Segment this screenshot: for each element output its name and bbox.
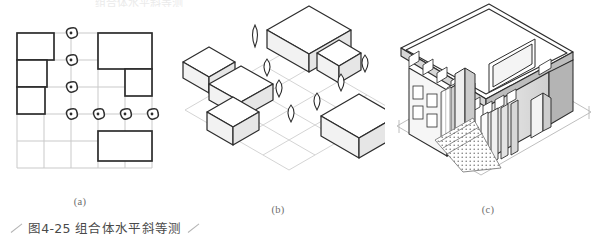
plan-view-svg bbox=[0, 0, 175, 195]
figure-caption-text: 图4-25 组合体水平斜等测 bbox=[28, 218, 182, 237]
decorative-slash-right-icon bbox=[187, 221, 200, 234]
tree-symbol bbox=[66, 28, 77, 39]
tree-symbol bbox=[147, 109, 158, 120]
tree-symbol bbox=[120, 109, 131, 120]
figure-row bbox=[0, 0, 600, 200]
sub-label-c: (c) bbox=[458, 204, 518, 215]
oblique-blocks bbox=[183, 6, 385, 158]
building-footprint bbox=[125, 69, 152, 96]
building-footprint bbox=[98, 131, 152, 161]
building-footprint bbox=[98, 33, 152, 69]
figure-caption: 图4-25 组合体水平斜等测 bbox=[10, 216, 210, 238]
sub-label-b: (b) bbox=[248, 204, 308, 215]
tree-leaf bbox=[288, 105, 294, 122]
tree-symbol bbox=[93, 109, 104, 120]
figure-page: 组合体水平斜等测 bbox=[0, 0, 600, 243]
tree-leaf bbox=[314, 93, 320, 110]
panel-a-plan-view bbox=[0, 0, 175, 195]
tree-leaf bbox=[264, 59, 270, 76]
plan-buildings bbox=[17, 33, 152, 161]
decorative-slash-left-icon bbox=[10, 221, 23, 234]
right-entrance bbox=[531, 93, 551, 138]
building-footprint bbox=[17, 87, 45, 114]
tree-leaf bbox=[338, 74, 344, 91]
tree-symbol bbox=[66, 82, 77, 93]
tree-leaf bbox=[253, 25, 258, 47]
panel-b-oblique-axonometric bbox=[175, 0, 385, 195]
tree-symbol bbox=[66, 109, 77, 120]
building-footprint bbox=[17, 60, 47, 87]
tree-leaf bbox=[276, 80, 282, 97]
tree-symbol bbox=[66, 55, 77, 66]
building-axonometric-svg bbox=[385, 0, 600, 195]
tree-leaf bbox=[362, 55, 368, 72]
oblique-axonometric-svg bbox=[175, 0, 385, 195]
building-footprint bbox=[17, 33, 54, 60]
panel-c-building-axonometric bbox=[385, 0, 600, 195]
sub-label-a: (a) bbox=[50, 196, 110, 207]
